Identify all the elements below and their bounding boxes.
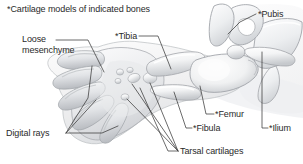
label-tibia: *Tibia	[115, 31, 137, 42]
limb-bud-illustration	[0, 0, 303, 164]
label-tarsal-cartilages: Tarsal cartilages	[180, 146, 243, 157]
label-fibula: *Fibula	[193, 123, 220, 134]
figure-title: *Cartilage models of indicated bones	[7, 4, 150, 15]
label-ilium: *Ilium	[269, 123, 291, 134]
label-femur: *Femur	[215, 109, 244, 120]
label-digital-rays: Digital rays	[6, 128, 49, 139]
label-loose-mesenchyme-line1: Loose	[22, 34, 46, 45]
label-pubis: *Pubis	[258, 9, 283, 20]
label-loose-mesenchyme-line2: mesenchyme	[22, 45, 75, 56]
